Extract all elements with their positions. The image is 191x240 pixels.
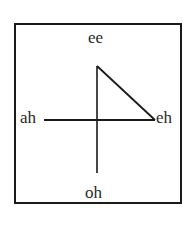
label-ee: ee (88, 29, 103, 46)
label-ah: ah (20, 109, 36, 126)
label-eh: eh (156, 109, 172, 126)
diagonal-line (97, 66, 155, 120)
label-oh: oh (85, 184, 102, 201)
